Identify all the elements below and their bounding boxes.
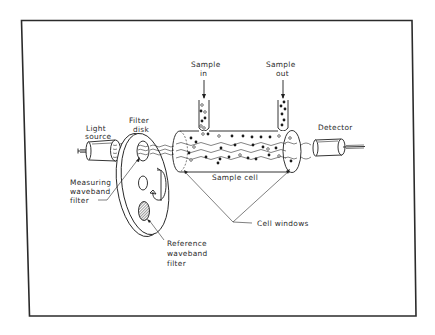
sample-in-label-1: Sample: [191, 60, 221, 69]
filter-disk-label-2: disk: [133, 125, 149, 134]
center-hole: [139, 176, 148, 190]
diagram-canvas: Light source Filter disk Sample in Sampl…: [0, 0, 435, 335]
reference-filter-label-2: waveband: [167, 249, 208, 258]
filter-disk-label-1: Filter: [129, 116, 150, 125]
light-source: [78, 140, 121, 161]
measuring-filter-label-3: filter: [70, 196, 90, 205]
detector-label: Detector: [318, 123, 353, 132]
cell-window-right: [283, 131, 301, 173]
light-source-label-2: source: [85, 132, 111, 141]
sample-cell-label: Sample cell: [212, 173, 258, 182]
detector: [301, 139, 365, 159]
reference-filter-label-3: filter: [167, 259, 187, 268]
sample-out-arrow: [281, 80, 285, 99]
sample-out-label-1: Sample: [266, 60, 296, 69]
reference-filter-label-1: Reference: [167, 239, 207, 248]
reference-waveband-filter: [139, 202, 150, 221]
measuring-filter-label-1: Measuring: [70, 178, 111, 187]
sample-out-label-2: out: [276, 69, 289, 78]
sample-outlet-tube: [278, 100, 288, 131]
sample-cell: [173, 100, 302, 173]
sample-in-label-2: in: [200, 69, 207, 78]
cell-windows-label: Cell windows: [257, 219, 309, 228]
measuring-filter-label-2: waveband: [70, 187, 111, 196]
sample-in-arrow: [202, 80, 206, 99]
